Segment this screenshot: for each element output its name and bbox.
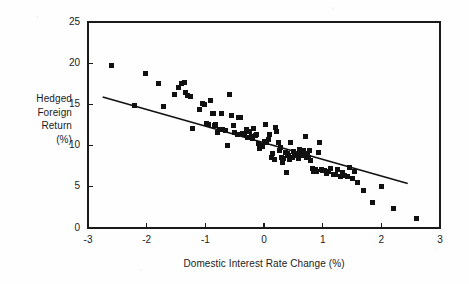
scatter-point [270, 151, 275, 156]
figure-scatter-plot: Hedged Foreign Return (%) Domestic Inter… [0, 0, 469, 284]
scatter-point [345, 174, 350, 179]
y-tick-label: 5 [54, 180, 80, 191]
scatter-point [272, 157, 277, 162]
scatter-point [156, 81, 161, 86]
scatter-point [379, 184, 384, 189]
y-tick-label: 10 [54, 139, 80, 150]
scatter-point [355, 180, 360, 185]
y-tick-label: 25 [54, 16, 80, 27]
scatter-point [225, 143, 230, 148]
y-tick-label: 15 [54, 98, 80, 109]
scatter-point [316, 150, 321, 155]
scatter-point [188, 94, 193, 99]
scatter-point [361, 188, 366, 193]
scatter-point [281, 156, 286, 161]
scatter-point [278, 145, 283, 150]
scatter-point [219, 111, 224, 116]
scatter-point [223, 128, 228, 133]
y-tick-label: 20 [54, 57, 80, 68]
scatter-point [288, 140, 293, 145]
x-tick-label: -2 [134, 234, 160, 245]
y-axis-title-line-3: Return [6, 119, 72, 133]
scatter-point [172, 92, 177, 97]
scatter-point [132, 103, 137, 108]
y-tick-label: 0 [54, 222, 80, 233]
scatter-point [352, 169, 357, 174]
scatter-point [213, 122, 218, 127]
scatter-point [307, 148, 312, 153]
scatter-point [303, 134, 308, 139]
scatter-point [284, 170, 289, 175]
scatter-point [333, 172, 338, 177]
scatter-point [161, 104, 166, 109]
scatter-point [267, 132, 272, 137]
scatter-point [251, 126, 256, 131]
scatter-point [308, 158, 313, 163]
scatter-point [335, 167, 340, 172]
scatter-point [182, 80, 187, 85]
scatter-point [254, 132, 259, 137]
scatter-point [190, 126, 195, 131]
scatter-point [328, 166, 333, 171]
scatter-point [238, 115, 243, 120]
x-tick-label: 3 [427, 234, 453, 245]
scatter-point [235, 132, 240, 137]
scatter-point [143, 71, 148, 76]
scatter-point [229, 113, 234, 118]
scatter-point [350, 176, 355, 181]
scatter-point [391, 206, 396, 211]
x-tick-label: 0 [251, 234, 277, 245]
x-tick-label: 1 [310, 234, 336, 245]
scatter-point [206, 122, 211, 127]
x-axis-title: Domestic Interest Rate Change (%) [88, 258, 440, 269]
scatter-point [297, 147, 302, 152]
scatter-point [208, 98, 213, 103]
scatter-point [211, 111, 216, 116]
scatter-point [109, 63, 114, 68]
scatter-point [227, 92, 232, 97]
x-tick-label: 2 [368, 234, 394, 245]
scatter-point [202, 102, 207, 107]
scatter-point [370, 200, 375, 205]
scatter-point [263, 122, 268, 127]
scatter-point [276, 140, 281, 145]
scatter-point [347, 165, 352, 170]
scatter-point [317, 140, 322, 145]
scatter-point [274, 129, 279, 134]
scatter-point [314, 169, 319, 174]
x-tick-label: -1 [192, 234, 218, 245]
scatter-point [273, 125, 278, 130]
scatter-point [414, 216, 419, 221]
scatter-point [197, 107, 202, 112]
x-tick-label: -3 [75, 234, 101, 245]
scatter-point [231, 123, 236, 128]
